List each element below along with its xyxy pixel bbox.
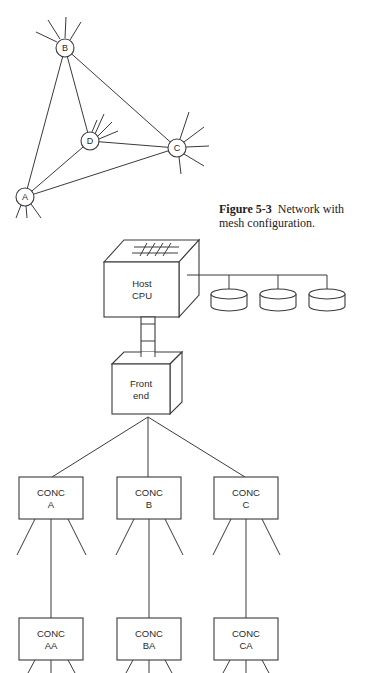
link-b-c xyxy=(65,48,177,148)
figure-caption: Figure 5-3 Network with mesh configurati… xyxy=(219,202,371,230)
spokes-a xyxy=(16,204,41,218)
node-a: A xyxy=(16,188,34,206)
conc-label-line1: CONC xyxy=(232,628,260,639)
conc-ca: CONC CA xyxy=(214,618,278,660)
channel-connector xyxy=(141,317,155,357)
frontend-label-line1: Front xyxy=(130,378,153,389)
node-label: D xyxy=(87,136,94,146)
figure-number: Figure 5-3 xyxy=(219,202,272,216)
conc-a: CONC A xyxy=(19,477,83,519)
network-diagram: B D C A Host CPU xyxy=(0,0,372,673)
link-d-c xyxy=(90,141,177,148)
link-a-d xyxy=(25,141,90,197)
link-b-d xyxy=(65,48,90,141)
conc-label-line2: B xyxy=(146,499,152,510)
mesh-network: B D C A xyxy=(16,17,209,218)
link-a-b xyxy=(25,48,65,197)
front-end: Front end xyxy=(112,352,182,414)
frontend-links xyxy=(52,417,245,477)
host-cpu: Host CPU xyxy=(104,240,199,317)
link-a-c xyxy=(25,148,177,197)
conc-label-line2: A xyxy=(48,499,55,510)
disk-icon xyxy=(309,289,345,311)
conc-level1-fanout xyxy=(17,519,280,618)
conc-label-line1: CONC xyxy=(232,487,260,498)
disk-icon xyxy=(211,289,247,311)
conc-b: CONC B xyxy=(117,477,181,519)
frontend-label-line2: end xyxy=(133,390,149,401)
node-d: D xyxy=(81,132,99,150)
disk-bus xyxy=(187,275,327,294)
conc-label-line1: CONC xyxy=(135,487,163,498)
node-label: C xyxy=(174,143,181,153)
conc-label-line2: C xyxy=(243,499,250,510)
host-label-line2: CPU xyxy=(132,290,152,301)
conc-ba: CONC BA xyxy=(117,618,181,660)
conc-label-line1: CONC xyxy=(37,628,65,639)
spokes-b xyxy=(36,17,81,42)
disk-icon xyxy=(260,289,296,311)
conc-label-line1: CONC xyxy=(37,487,65,498)
conc-label-line2: CA xyxy=(239,640,253,651)
conc-c: CONC C xyxy=(214,477,278,519)
conc-label-line2: BA xyxy=(143,640,156,651)
host-label-line1: Host xyxy=(132,278,152,289)
node-b: B xyxy=(56,39,74,57)
node-label: A xyxy=(22,192,28,202)
conc-aa: CONC AA xyxy=(19,618,83,660)
conc-level2-fanout xyxy=(28,660,269,673)
node-label: B xyxy=(62,43,68,53)
conc-label-line2: AA xyxy=(45,640,58,651)
node-c: C xyxy=(168,139,186,157)
conc-label-line1: CONC xyxy=(135,628,163,639)
